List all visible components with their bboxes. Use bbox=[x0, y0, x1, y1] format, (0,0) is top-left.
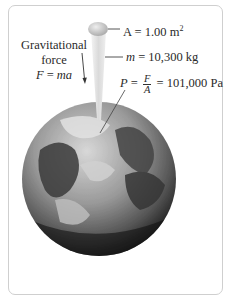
area-value: 1.00 m bbox=[145, 25, 180, 39]
force-formula: F = ma bbox=[18, 68, 90, 83]
area-exponent: 2 bbox=[179, 24, 183, 33]
earth-globe bbox=[20, 102, 180, 270]
force-label-line1: Gravitational bbox=[18, 38, 90, 53]
force-formula-rhs: ma bbox=[57, 68, 72, 82]
fraction-numerator: F bbox=[143, 74, 151, 85]
fraction-denominator: A bbox=[143, 85, 151, 95]
force-label-line2: force bbox=[18, 53, 90, 68]
pressure-equals-2: = bbox=[153, 76, 166, 90]
pressure-equals-1: = bbox=[128, 76, 141, 90]
mass-value: 10,300 kg bbox=[148, 50, 198, 64]
area-label: A = 1.00 m2 bbox=[123, 22, 183, 39]
pressure-label: P = FA = 101,000 Pa bbox=[120, 72, 223, 95]
force-formula-equals: = bbox=[44, 68, 57, 82]
pressure-value: 101,000 Pa bbox=[167, 76, 223, 90]
mass-equals: = bbox=[135, 50, 148, 64]
area-equals: = bbox=[131, 25, 144, 39]
gravitational-force-label: Gravitational force F = ma bbox=[18, 38, 90, 83]
mass-symbol: m bbox=[126, 50, 135, 64]
mass-label: m = 10,300 kg bbox=[126, 50, 198, 64]
area-disk bbox=[88, 22, 108, 36]
pressure-symbol: P bbox=[120, 76, 128, 90]
force-over-area-fraction: FA bbox=[143, 74, 151, 95]
force-formula-lhs: F bbox=[36, 68, 44, 82]
